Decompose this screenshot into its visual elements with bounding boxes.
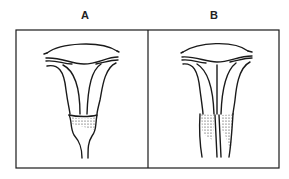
right-wall bbox=[233, 62, 250, 114]
fundus-top bbox=[183, 44, 248, 52]
cervix-shading-left bbox=[201, 114, 214, 140]
right-wall bbox=[97, 63, 116, 114]
septate-canal bbox=[215, 115, 221, 157]
panel-a-drawing bbox=[44, 44, 119, 158]
cervix-shading bbox=[70, 116, 97, 130]
panel-b-drawing bbox=[181, 44, 252, 157]
left-wall bbox=[47, 66, 70, 114]
left-wall bbox=[183, 64, 203, 114]
diagram-canvas bbox=[0, 0, 289, 179]
cervix-shading-right bbox=[222, 114, 233, 150]
fundus-top bbox=[47, 44, 117, 53]
fundus-band bbox=[46, 57, 118, 64]
